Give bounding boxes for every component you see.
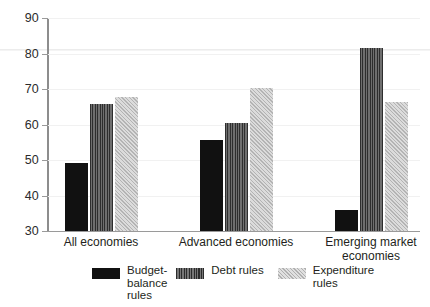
- y-axis-tick-label: 40: [25, 189, 39, 203]
- bar-chart: 30405060708090 All economiesAdvanced eco…: [0, 0, 430, 307]
- legend-swatch: [176, 268, 204, 279]
- legend-label: Debt rules: [211, 264, 263, 277]
- y-axis-tick: [42, 231, 48, 232]
- y-axis-tick: [42, 18, 48, 19]
- y-axis-tick-label: 50: [25, 153, 39, 167]
- bar: [250, 88, 273, 231]
- legend-swatch: [92, 268, 120, 279]
- x-axis-line: [47, 231, 420, 232]
- y-axis-tick: [42, 89, 48, 90]
- bar: [115, 97, 138, 231]
- y-axis-tick-label: 90: [25, 11, 39, 25]
- y-axis-tick: [42, 160, 48, 161]
- legend-swatch: [278, 268, 306, 279]
- legend-item: Expenditure rules: [278, 264, 374, 289]
- y-axis-tick-label: 60: [25, 118, 39, 132]
- y-axis-tick-label: 80: [25, 47, 39, 61]
- y-axis-tick: [42, 54, 48, 55]
- plot-area: 30405060708090: [47, 18, 420, 232]
- y-axis-tick-label: 70: [25, 82, 39, 96]
- legend-item: Budget- balance rules: [92, 264, 167, 302]
- y-axis-tick: [42, 125, 48, 126]
- chart-legend: Budget- balance rulesDebt rulesExpenditu…: [92, 264, 374, 302]
- bar: [360, 48, 383, 231]
- bar: [385, 102, 408, 231]
- category-label: All economies: [36, 236, 166, 250]
- legend-label: Expenditure rules: [313, 264, 374, 289]
- y-axis-tick: [42, 196, 48, 197]
- legend-label: Budget- balance rules: [127, 264, 167, 302]
- bar: [65, 163, 88, 230]
- bar: [225, 123, 248, 230]
- bar: [335, 210, 358, 231]
- category-label: Advanced economies: [171, 236, 301, 250]
- bar: [200, 140, 223, 231]
- category-label: Emerging market economies: [306, 236, 430, 263]
- gridline: [47, 18, 420, 19]
- bar: [90, 104, 113, 231]
- legend-item: Debt rules: [176, 264, 263, 279]
